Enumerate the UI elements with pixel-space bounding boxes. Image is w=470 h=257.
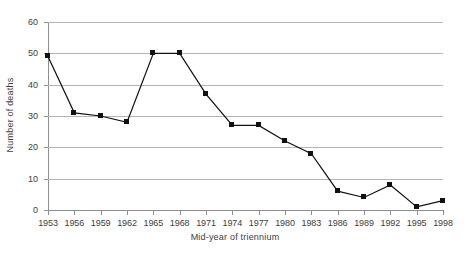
y-tick-label: 60: [4, 17, 38, 27]
x-tick-mark: [74, 210, 75, 215]
data-point-marker: [361, 194, 366, 199]
x-axis-title: Mid-year of triennium: [0, 232, 470, 242]
data-point-marker: [387, 182, 392, 187]
x-tick-mark: [180, 210, 181, 215]
x-axis-line: [48, 210, 443, 211]
data-point-marker: [98, 113, 103, 118]
data-point-marker: [177, 50, 182, 55]
x-tick-mark: [364, 210, 365, 215]
data-point-marker: [282, 138, 287, 143]
x-tick-mark: [285, 210, 286, 215]
y-tick-label: 0: [4, 205, 38, 215]
y-tick-label: 30: [4, 111, 38, 121]
x-tick-label: 1998: [423, 218, 463, 228]
data-point-marker: [440, 198, 445, 203]
y-tick-label: 10: [4, 174, 38, 184]
x-tick-mark: [232, 210, 233, 215]
y-tick-label: 50: [4, 48, 38, 58]
x-tick-mark: [443, 210, 444, 215]
x-tick-mark: [390, 210, 391, 215]
x-tick-mark: [48, 210, 49, 215]
data-point-marker: [256, 122, 261, 127]
data-point-marker: [124, 119, 129, 124]
line-chart: Number of deaths 01020304050601953195619…: [0, 0, 470, 257]
y-tick-label: 40: [4, 80, 38, 90]
series-line: [48, 22, 443, 210]
x-tick-mark: [153, 210, 154, 215]
x-tick-mark: [259, 210, 260, 215]
x-tick-mark: [417, 210, 418, 215]
x-tick-mark: [127, 210, 128, 215]
data-point-marker: [71, 110, 76, 115]
y-tick-label: 20: [4, 142, 38, 152]
x-tick-mark: [101, 210, 102, 215]
data-point-marker: [45, 53, 50, 58]
data-point-marker: [308, 151, 313, 156]
data-point-marker: [203, 91, 208, 96]
plot-area: 0102030405060195319561959196219651968197…: [48, 22, 443, 210]
data-point-marker: [229, 122, 234, 127]
data-point-marker: [335, 188, 340, 193]
x-tick-mark: [311, 210, 312, 215]
x-tick-mark: [206, 210, 207, 215]
x-tick-mark: [338, 210, 339, 215]
data-point-marker: [150, 50, 155, 55]
data-point-marker: [414, 204, 419, 209]
